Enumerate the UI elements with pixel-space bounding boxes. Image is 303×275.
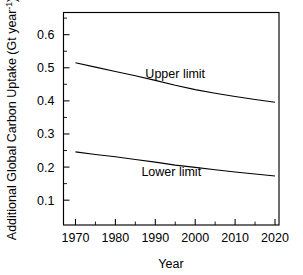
y-tick-label: 0.5	[37, 61, 54, 75]
y-tick-label: 0.3	[37, 127, 54, 141]
y-axis-title-suffix: )	[5, 0, 19, 2]
y-tick-label: 0.6	[37, 28, 54, 42]
y-tick-label: 0.2	[37, 161, 54, 175]
figure-container: 0.10.20.30.40.50.6 197019801990200020102…	[0, 0, 303, 275]
x-tick-label: 2010	[221, 231, 249, 245]
y-axis-title: Additional Global Carbon Uptake (Gt year…	[4, 0, 19, 240]
x-tick-label: 2020	[261, 231, 289, 245]
y-tick-label: 0.4	[37, 94, 54, 108]
line-chart: 0.10.20.30.40.50.6 197019801990200020102…	[0, 0, 303, 275]
x-tick-label: 1970	[62, 231, 90, 245]
x-tick-label: 2000	[181, 231, 209, 245]
annotation-lower-limit: Lower limit	[141, 165, 201, 179]
x-tick-label: 1990	[141, 231, 169, 245]
y-tick-label: 0.1	[37, 194, 54, 208]
y-axis-title-main: Additional Global Carbon Uptake (Gt year	[5, 10, 19, 241]
x-tick-label: 1980	[101, 231, 129, 245]
annotation-upper-limit: Upper limit	[145, 67, 205, 81]
x-axis-title: Year	[158, 257, 183, 271]
